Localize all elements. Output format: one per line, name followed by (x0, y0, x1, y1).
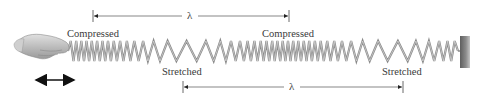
label-stretched-left: Stretched (162, 67, 202, 78)
label-stretched-right: Stretched (382, 67, 422, 78)
wavelength-bottom-symbol: λ (286, 81, 297, 92)
spring (68, 41, 460, 61)
label-compressed-right: Compressed (262, 29, 314, 40)
hand-icon (14, 34, 69, 59)
wave-diagram: Compressed Compressed Stretched Stretche… (0, 0, 486, 98)
label-compressed-left: Compressed (67, 29, 119, 40)
wall (460, 36, 470, 68)
diagram-canvas (0, 0, 486, 98)
wavelength-top-symbol: λ (184, 10, 195, 21)
